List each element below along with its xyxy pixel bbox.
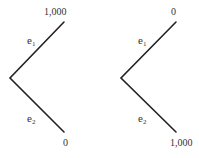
decision-trees-lines: [0, 0, 199, 158]
left-tree-branches: [10, 22, 64, 132]
left-top-payoff: 1,000: [44, 7, 67, 17]
left-bottom-payoff: 0: [63, 138, 68, 148]
right-e2-label: e2: [138, 113, 146, 128]
right-tree-branches: [121, 22, 176, 132]
right-e1-label: e1: [138, 35, 146, 50]
right-top-payoff: 0: [171, 7, 176, 17]
left-e1-label: e1: [27, 35, 35, 50]
right-bottom-payoff: 1,000: [170, 138, 193, 148]
left-e2-label: e2: [27, 113, 35, 128]
